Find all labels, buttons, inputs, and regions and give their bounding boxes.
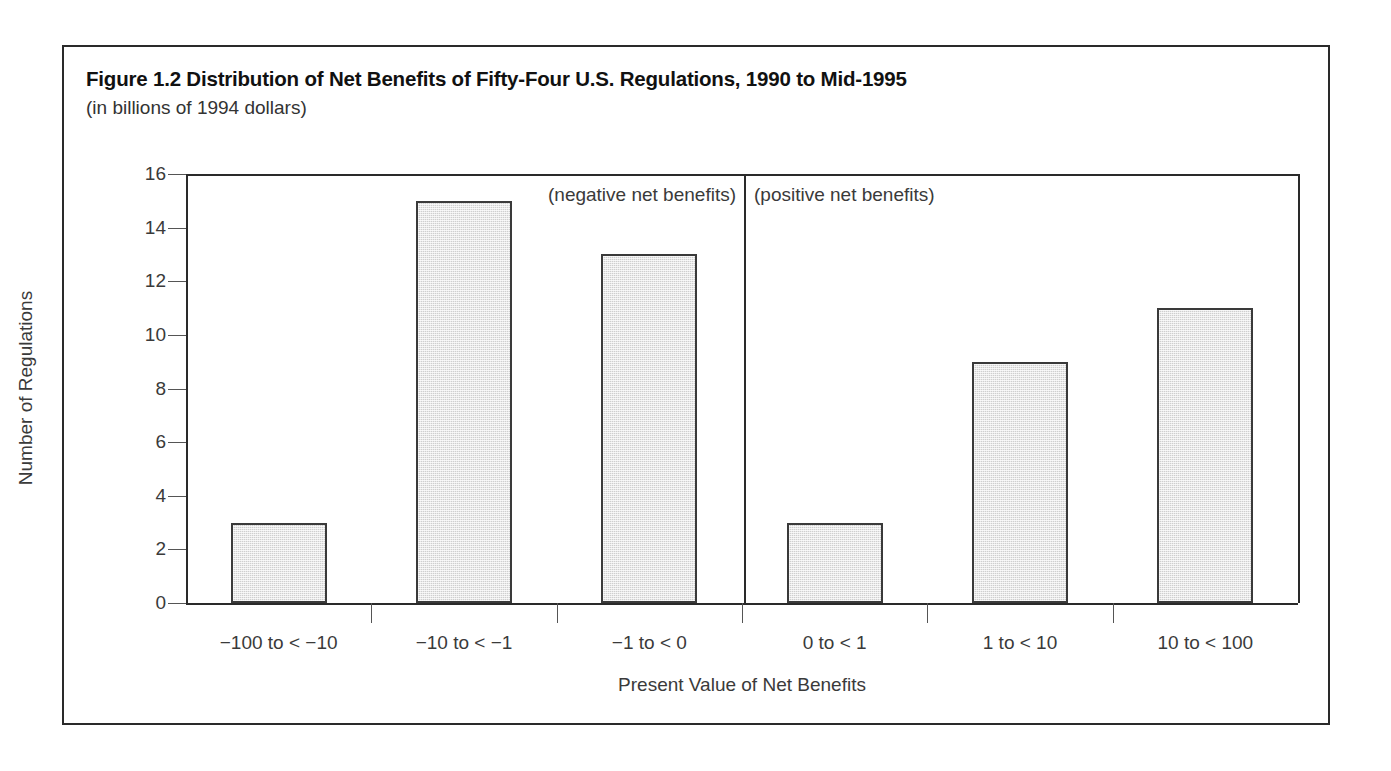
y-axis-tick-label: 10: [145, 324, 166, 346]
y-axis-tick-mark: [168, 496, 186, 497]
y-axis-tick-mark: [168, 228, 186, 229]
y-axis-tick-label: 6: [155, 431, 166, 453]
y-axis-tick-label: 12: [145, 270, 166, 292]
bar: [1157, 308, 1253, 603]
sign-divider-line: [744, 174, 746, 603]
annotation-positive-net-benefits: (positive net benefits): [744, 184, 935, 206]
x-axis-tick-mark: [1113, 603, 1114, 623]
y-axis-tick-mark: [168, 442, 186, 443]
x-axis-tick-mark: [557, 603, 558, 623]
bar-chart-plot-area: Number of Regulations 0246810121416 (neg…: [186, 174, 1298, 603]
bar: [972, 362, 1068, 603]
plot-frame-left-axis: [186, 174, 188, 603]
plot-frame-right: [1298, 174, 1300, 603]
plot-frame-top: [186, 174, 1298, 176]
bar: [787, 523, 883, 603]
y-axis-tick-label: 16: [145, 163, 166, 185]
bar: [416, 201, 512, 603]
figure-frame: Figure 1.2 Distribution of Net Benefits …: [62, 45, 1330, 725]
y-axis-tick-label: 8: [155, 378, 166, 400]
x-axis-tick-label: 10 to < 100: [1158, 632, 1254, 654]
bar: [231, 523, 327, 603]
annotation-negative-net-benefits: (negative net benefits): [548, 184, 744, 206]
y-axis-tick-mark: [168, 174, 186, 175]
x-axis-tick-label: 0 to < 1: [803, 632, 867, 654]
y-axis-tick-label: 0: [155, 592, 166, 614]
y-axis-tick-mark: [168, 281, 186, 282]
x-axis-tick-mark: [371, 603, 372, 623]
x-axis-tick-label: −10 to < −1: [416, 632, 513, 654]
x-axis-title: Present Value of Net Benefits: [618, 674, 866, 696]
x-axis-tick-label: −1 to < 0: [612, 632, 687, 654]
y-axis-tick-labels: 0246810121416: [110, 174, 166, 603]
y-axis-tick-mark: [168, 549, 186, 550]
y-axis-tick-mark: [168, 335, 186, 336]
x-axis-tick-label: 1 to < 10: [983, 632, 1057, 654]
x-axis-tick-label: −100 to < −10: [220, 632, 338, 654]
page-title: Figure 1.2 Distribution of Net Benefits …: [86, 67, 907, 91]
y-axis-tick-mark: [168, 389, 186, 390]
y-axis-title: Number of Regulations: [15, 291, 37, 485]
y-axis-tick-mark: [168, 603, 186, 604]
figure-subtitle: (in billions of 1994 dollars): [86, 97, 307, 119]
y-axis-tick-label: 2: [155, 538, 166, 560]
y-axis-tick-label: 4: [155, 485, 166, 507]
bar: [601, 254, 697, 603]
x-axis-tick-mark: [927, 603, 928, 623]
x-axis-tick-mark: [742, 603, 743, 623]
y-axis-tick-label: 14: [145, 217, 166, 239]
